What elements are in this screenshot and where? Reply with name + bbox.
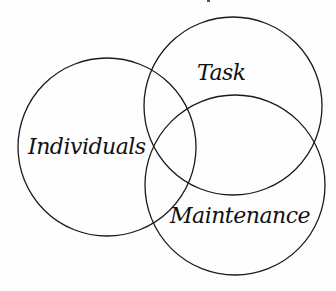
label-task: Task bbox=[197, 60, 246, 85]
label-individuals: Individuals bbox=[28, 134, 146, 159]
venn-diagram: Task Individuals Maintenance bbox=[0, 0, 336, 291]
cropped-mark bbox=[207, 0, 210, 2]
label-maintenance: Maintenance bbox=[170, 203, 310, 228]
maintenance-circle bbox=[145, 95, 325, 275]
task-circle bbox=[144, 17, 322, 195]
